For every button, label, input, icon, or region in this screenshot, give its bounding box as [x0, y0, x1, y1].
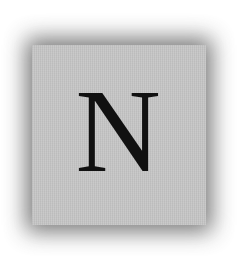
letter-tile: N — [32, 45, 206, 225]
letter-tile-stage: N — [0, 0, 244, 256]
tile-letter: N — [32, 45, 206, 225]
